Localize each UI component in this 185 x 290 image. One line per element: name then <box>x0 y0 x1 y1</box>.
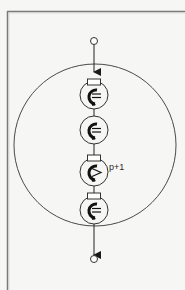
output-terminal <box>91 224 98 263</box>
outer-ring <box>14 64 176 226</box>
stage-4 <box>80 193 108 224</box>
register-icon <box>88 193 101 199</box>
register-icon <box>88 79 101 85</box>
frame-border <box>7 11 185 290</box>
c-equals-icon <box>89 204 101 220</box>
stage-3: p+1 <box>80 155 124 186</box>
register-icon <box>88 155 101 161</box>
c-equals-icon <box>89 90 101 106</box>
stage-label: p+1 <box>109 162 124 172</box>
input-terminal <box>91 38 98 73</box>
pipeline-diagram: p+1 <box>0 0 185 290</box>
c-equals-icon <box>89 124 101 140</box>
stage-2 <box>80 116 108 144</box>
c-greater-icon <box>89 166 101 182</box>
diagram-canvas: p+1 <box>0 0 185 290</box>
stage-1 <box>80 79 108 109</box>
